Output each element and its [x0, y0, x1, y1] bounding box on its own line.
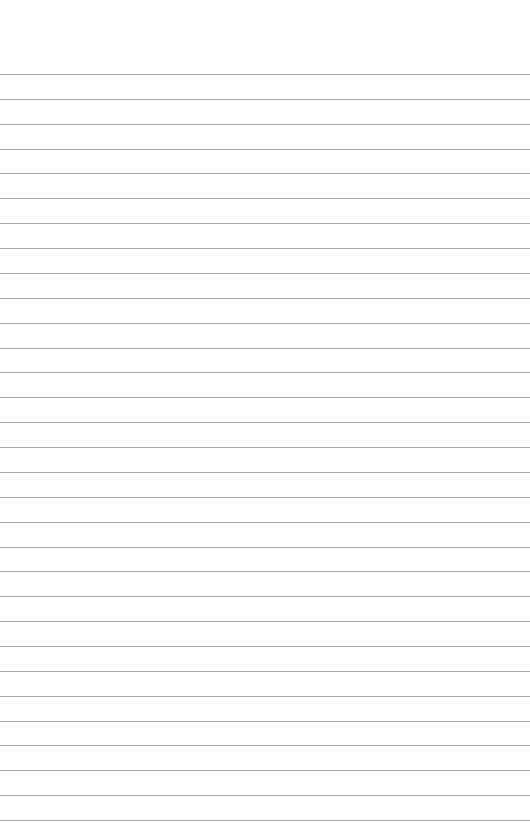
ruled-line — [0, 248, 530, 249]
lined-paper-sheet — [0, 0, 530, 835]
ruled-line — [0, 422, 530, 423]
ruled-line — [0, 547, 530, 548]
ruled-line — [0, 447, 530, 448]
ruled-line — [0, 173, 530, 174]
ruled-line — [0, 348, 530, 349]
ruled-line — [0, 149, 530, 150]
ruled-line — [0, 770, 530, 771]
ruled-line — [0, 273, 530, 274]
ruled-line — [0, 223, 530, 224]
ruled-line — [0, 99, 530, 100]
ruled-line — [0, 571, 530, 572]
ruled-line — [0, 646, 530, 647]
ruled-line — [0, 472, 530, 473]
ruled-line — [0, 74, 530, 75]
ruled-line — [0, 397, 530, 398]
ruled-line — [0, 596, 530, 597]
ruled-line — [0, 298, 530, 299]
ruled-line — [0, 198, 530, 199]
ruled-line — [0, 522, 530, 523]
ruled-line — [0, 124, 530, 125]
ruled-line — [0, 795, 530, 796]
ruled-line — [0, 745, 530, 746]
ruled-line — [0, 721, 530, 722]
ruled-line — [0, 497, 530, 498]
ruled-line — [0, 671, 530, 672]
ruled-line — [0, 621, 530, 622]
ruled-line — [0, 372, 530, 373]
ruled-line — [0, 820, 530, 821]
ruled-line — [0, 323, 530, 324]
ruled-line — [0, 696, 530, 697]
